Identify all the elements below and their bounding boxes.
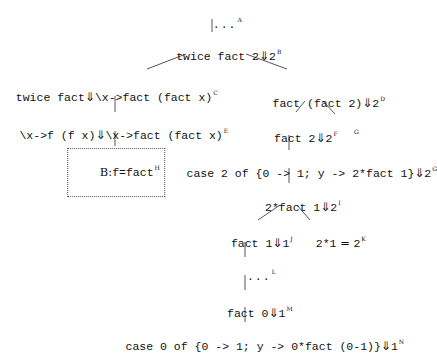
node-b: twice fact 2⇓2B	[149, 35, 282, 78]
node-k-value: 2	[353, 237, 360, 250]
node-c-label: C	[213, 89, 218, 96]
node-c: twice fact⇓\x->fact (fact x)C	[0, 76, 218, 119]
node-n-value: 1	[391, 340, 398, 353]
node-g-expr: case 2 of {0 -> 1; y -> 2*fact 1}	[187, 167, 415, 180]
big-step-arrow-icon: ⇓	[268, 306, 278, 320]
node-c-expr: twice fact	[16, 91, 85, 104]
node-h-binding-label: B:	[100, 165, 112, 179]
node-a-label: A	[237, 16, 242, 23]
node-b-value: 2	[269, 50, 276, 63]
node-l-label: L	[272, 268, 277, 275]
node-j-expr: fact 1	[231, 237, 272, 250]
node-i-label: I	[338, 199, 340, 206]
node-h-expr: f=fact	[112, 166, 153, 179]
node-g-value: 2	[424, 167, 431, 180]
big-step-arrow-icon: ⇓	[414, 166, 424, 180]
node-e-label: E	[224, 127, 228, 134]
node-a-expr: ...	[213, 18, 237, 31]
node-k-expr: 2*1	[316, 237, 337, 250]
node-n: case 0 of {0 -> 1; y -> 0*fact (0-1)}⇓1N	[98, 325, 404, 353]
node-b-label: B	[277, 48, 281, 55]
node-m-expr: fact 0	[227, 307, 268, 320]
big-step-arrow-icon: ⇓	[320, 200, 330, 214]
node-g-leaf-label: G	[354, 128, 359, 135]
node-d-expr: fact (fact 2)	[273, 97, 363, 110]
node-g-label: G	[432, 165, 437, 172]
node-f-expr: fact 2	[274, 132, 315, 145]
big-step-arrow-icon: ⇓	[85, 90, 95, 104]
node-b-expr: twice fact 2	[176, 50, 259, 63]
node-l-expr: ...	[247, 270, 271, 283]
node-e-expr: \x->f (f x)	[19, 129, 95, 142]
node-i-expr: 2*fact 1	[265, 201, 320, 214]
equals-sign: =	[340, 236, 350, 250]
node-c-value: \x->fact (fact x)	[95, 91, 212, 104]
node-n-label: N	[399, 338, 404, 345]
big-step-arrow-icon: ⇓	[95, 128, 105, 142]
node-d-label: D	[380, 95, 385, 102]
big-step-arrow-icon: ⇓	[272, 236, 282, 250]
big-step-arrow-icon: ⇓	[259, 49, 269, 63]
node-m-value: 1	[279, 307, 286, 320]
node-m-label: M	[286, 305, 292, 312]
node-i-value: 2	[330, 201, 337, 214]
node-k: 2*1 = 2K	[288, 222, 366, 265]
node-k-label: K	[361, 235, 365, 242]
node-d-value: 2	[372, 97, 379, 110]
node-h-binding-box: B:f=factH	[67, 148, 165, 197]
big-step-arrow-icon: ⇓	[381, 339, 391, 353]
node-n-expr: case 0 of {0 -> 1; y -> 0*fact (0-1)}	[126, 340, 381, 353]
big-step-arrow-icon: ⇓	[315, 131, 325, 145]
big-step-arrow-icon: ⇓	[362, 96, 372, 110]
node-e-value: \x->fact (fact x)	[105, 129, 222, 142]
